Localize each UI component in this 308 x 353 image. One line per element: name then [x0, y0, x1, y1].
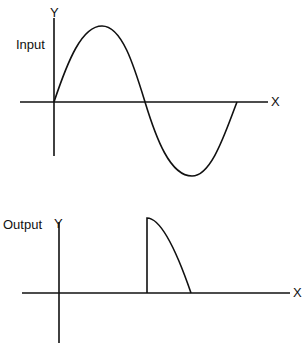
input-y-axis-label: Y — [50, 6, 59, 19]
input-label: Input — [16, 38, 45, 51]
input-plot — [20, 18, 268, 176]
diagram-canvas — [0, 0, 308, 353]
input-sine-wave — [54, 26, 237, 176]
output-x-axis-label: X — [293, 286, 302, 299]
output-pulse-wave — [147, 218, 191, 293]
output-y-axis-label: Y — [54, 217, 63, 230]
output-label: Output — [3, 218, 42, 231]
output-plot — [22, 218, 290, 343]
input-x-axis-label: X — [271, 95, 280, 108]
